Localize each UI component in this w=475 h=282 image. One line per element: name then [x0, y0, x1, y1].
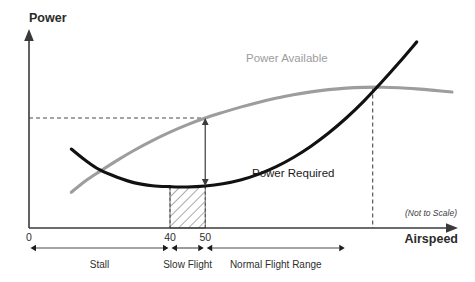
power-required-curve [71, 42, 416, 187]
x-axis-title: Airspeed [405, 232, 459, 246]
range-arrowhead-right [339, 245, 345, 251]
not-to-scale-note: (Not to Scale) [405, 208, 457, 218]
y-axis-arrowhead [24, 29, 34, 41]
range-normal-flight-range: Normal Flight Range [207, 245, 345, 270]
x-tick-labels: 04050 [26, 231, 211, 243]
power-curves-chart: Power Airspeed (Not to Scale) 04050 Powe… [0, 0, 475, 282]
range-arrowhead-right [163, 245, 169, 251]
range-stall: Stall [31, 245, 169, 270]
excess-power-double-arrow [202, 118, 209, 186]
flight-regime-ranges: StallSlow FlightNormal Flight Range [31, 245, 345, 270]
x-tick-label-0: 0 [26, 231, 32, 243]
x-tick-label-50: 50 [199, 231, 211, 243]
range-arrowhead-left [207, 245, 213, 251]
chart-canvas: Power Airspeed (Not to Scale) 04050 Powe… [0, 0, 475, 282]
hatched-region-reversed-command [170, 186, 205, 228]
range-arrowhead-left [172, 245, 178, 251]
power-required-label: Power Required [252, 167, 334, 179]
range-label: Slow Flight [163, 259, 212, 270]
axes [24, 29, 458, 233]
range-label: Normal Flight Range [230, 259, 322, 270]
x-tick-label-40: 40 [164, 231, 176, 243]
range-arrowhead-right [198, 245, 204, 251]
power-available-label: Power Available [246, 52, 328, 64]
y-axis-title: Power [29, 11, 67, 25]
range-label: Stall [90, 259, 109, 270]
range-slow-flight: Slow Flight [163, 245, 212, 270]
range-arrowhead-left [31, 245, 37, 251]
